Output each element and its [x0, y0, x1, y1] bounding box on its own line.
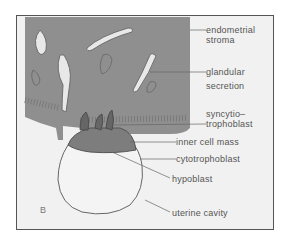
label-syncytiotrophoblast: syncytio– trophoblast — [206, 109, 253, 129]
label-line: glandular — [206, 67, 245, 77]
label-uterine-cavity: uterine cavity — [172, 208, 228, 218]
label-hypoblast: hypoblast — [172, 174, 212, 184]
inner-cell-mass — [68, 128, 136, 153]
label-inner-cell-mass: inner cell mass — [176, 137, 239, 147]
label-line: secretion — [206, 81, 245, 91]
label-line: syncytio– — [206, 109, 253, 119]
label-line: endometrial — [206, 25, 255, 35]
label-line: stroma — [206, 35, 255, 45]
label-cytotrophoblast: cytotrophoblast — [176, 154, 240, 164]
panel-letter: B — [40, 205, 46, 215]
label-endometrial-stroma: endometrial stroma — [206, 25, 255, 45]
label-line: trophoblast — [206, 119, 253, 129]
label-glandular-secretion: glandular secretion — [206, 67, 245, 91]
